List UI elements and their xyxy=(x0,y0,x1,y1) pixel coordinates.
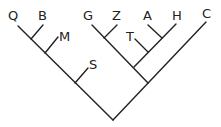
branch-t xyxy=(135,39,148,52)
taxon-label-s: S xyxy=(89,57,97,72)
taxon-label-q: Q xyxy=(8,8,18,23)
taxon-label-b: B xyxy=(38,8,47,23)
taxon-label-z: Z xyxy=(112,8,121,23)
branch-m xyxy=(45,37,58,53)
taxon-label-a: A xyxy=(143,8,152,23)
branch-g xyxy=(92,25,148,83)
taxon-label-c: C xyxy=(202,6,211,21)
taxon-label-m: M xyxy=(59,29,70,44)
taxon-label-h: H xyxy=(172,8,182,23)
branch-b xyxy=(31,25,43,39)
cladogram: Q B M S G Z T A H C xyxy=(0,0,221,127)
taxon-label-t: T xyxy=(125,29,134,44)
branch-z xyxy=(104,25,117,38)
branch-s xyxy=(75,68,88,83)
branch-a xyxy=(148,25,162,38)
cladogram-svg: Q B M S G Z T A H C xyxy=(0,0,221,127)
taxon-label-g: G xyxy=(83,8,93,23)
